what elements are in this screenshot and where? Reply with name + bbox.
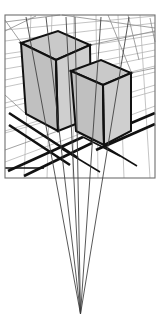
perspective-drawing: Two-point perspective study with two ext… bbox=[0, 0, 163, 320]
right-block-right-face bbox=[103, 73, 131, 145]
right-block-vertical-edge bbox=[103, 85, 104, 145]
right-block bbox=[71, 60, 131, 145]
perspective-canvas bbox=[0, 0, 163, 320]
